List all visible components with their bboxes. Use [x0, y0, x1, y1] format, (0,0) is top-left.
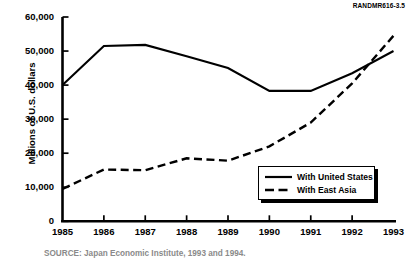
legend-label-with-east-asia: With East Asia — [297, 185, 356, 195]
chart-legend: With United States With East Asia — [258, 166, 375, 200]
x-tick-label: 1989 — [205, 226, 251, 237]
x-tick-label: 1986 — [81, 226, 127, 237]
x-tick-label: 1990 — [246, 226, 292, 237]
x-tick-label: 1993 — [371, 226, 411, 237]
x-tick-label: 1991 — [288, 226, 334, 237]
figure-root: RANDMR616-3.5 Millions of U.S. dollars 0… — [0, 0, 411, 261]
x-tick-label: 1988 — [164, 226, 210, 237]
legend-label-with-united-states: With United States — [297, 172, 373, 182]
x-tick-label: 1987 — [122, 226, 168, 237]
legend-item-1: With East Asia — [265, 183, 374, 196]
x-axis-tick-labels: 198519861987198819891990199119921993 — [0, 226, 411, 242]
chart-plot-area — [0, 0, 411, 261]
legend-swatch-dashed-icon — [265, 185, 292, 195]
legend-item-0: With United States — [265, 170, 374, 183]
x-tick-label: 1985 — [40, 226, 86, 237]
legend-swatch-solid-icon — [265, 172, 292, 182]
x-tick-label: 1992 — [329, 226, 375, 237]
series-line-with-united-states — [63, 45, 394, 91]
source-note: SOURCE: Japan Economic Institute, 1993 a… — [44, 249, 246, 258]
